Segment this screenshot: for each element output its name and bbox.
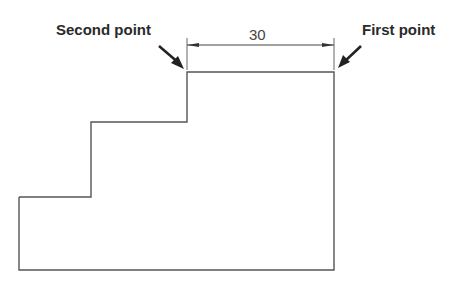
dimension-arrow-left-icon (187, 43, 199, 47)
stepped-profile (19, 72, 334, 270)
second-point-label: Second point (56, 21, 151, 38)
dimension-value: 30 (249, 26, 266, 43)
dimension-arrow-right-icon (322, 43, 334, 47)
first-point-label: First point (362, 21, 435, 38)
drawing-canvas (0, 0, 472, 282)
